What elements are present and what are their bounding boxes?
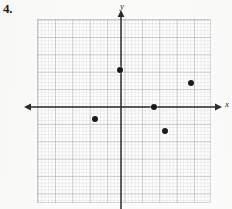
x-axis-label: x [225, 100, 229, 109]
y-axis-label: y [120, 2, 124, 11]
worksheet-page: 4. y x [0, 0, 232, 209]
x-axis-left-arrow-icon [24, 104, 31, 111]
coordinate-axes [0, 0, 232, 209]
x-axis-right-arrow-icon [215, 104, 222, 111]
y-axis-up-arrow-icon [118, 10, 125, 17]
